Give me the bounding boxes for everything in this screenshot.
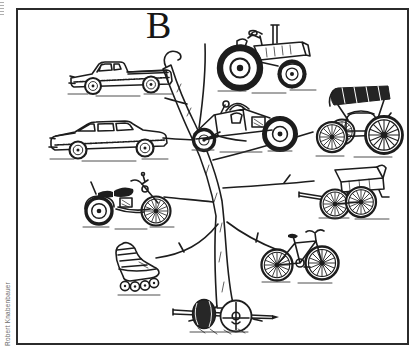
motorcycle-drawing: Motorcycle (83, 173, 174, 230)
figure-frame: B Hand-drawn tree with vehicles on its b… (16, 8, 409, 345)
skate-sole (119, 269, 156, 271)
buggy-rear-wheel (262, 116, 298, 152)
carriage-front-wheel (317, 122, 347, 152)
sedan-rear-wheel (137, 140, 154, 157)
artist-credit: Robert Knabenbauer (4, 282, 11, 346)
bicycle-saddle (288, 234, 298, 239)
tractor-ground-shadow (218, 90, 316, 93)
pickup-truck-drawing: Pickup truck (68, 62, 172, 96)
sedan-windows (56, 123, 133, 136)
sedan-car-drawing: Sedan car (49, 121, 168, 161)
tree-upper-shoot (199, 44, 205, 128)
truck-windows (97, 64, 121, 72)
truck-rear-wheel (143, 77, 159, 93)
axle-left-wheel (193, 300, 216, 329)
bicycle-drawing: Bicycle (262, 230, 339, 283)
motorcycle-tank (114, 187, 134, 197)
page-edge-print-artifact (0, 2, 4, 16)
motorcycle-seat (98, 191, 113, 198)
sedan-ground-shadow (50, 159, 168, 161)
motorcycle-rear-wheel (86, 198, 112, 224)
motorcycle-engine-hatch (122, 200, 130, 207)
vehicle-tree-illustration: Hand-drawn tree with vehicles on its bra… (18, 10, 407, 343)
bicycle-ground-shadow (262, 282, 332, 283)
motorcycle-mirror (142, 173, 145, 176)
motorcycle-sissy-bar (91, 182, 96, 194)
truck-front-wheel (85, 78, 101, 94)
hand-cart-drawing: Two-wheeled cart (299, 165, 389, 219)
tractor-hood-vents (266, 45, 291, 57)
truck-ground-shadow (68, 94, 172, 96)
sedan-front-wheel (70, 142, 87, 159)
dune-buggy-drawing: Dune buggy (192, 101, 298, 152)
skate-straps (117, 248, 147, 267)
carriage-canopy (331, 86, 390, 105)
axle-tip (272, 315, 279, 320)
inline-skate-drawing: In-line skate (116, 243, 160, 295)
skate-boot (116, 243, 159, 281)
tractor-exhaust-stack (271, 25, 279, 44)
motorcycle-handlebars (131, 175, 148, 184)
wheel-and-axle-drawing: Wheel and axle (173, 300, 279, 335)
buggy-steering-wheel (223, 101, 229, 107)
carriage-rear-wheel (366, 117, 403, 154)
buggy-engine-hatch (254, 119, 263, 127)
tree-tip-hook (164, 51, 181, 67)
horseless-carriage-drawing: Horseless carriage (316, 86, 403, 157)
bicycle-handlebars (306, 230, 324, 241)
tractor-drawing: Farm tractor (217, 25, 316, 93)
motorcycle-ground-shadow (83, 227, 174, 229)
buggy-seat (231, 113, 242, 123)
carriage-ground-shadow (316, 156, 392, 157)
